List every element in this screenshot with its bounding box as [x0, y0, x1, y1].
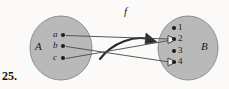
function-mapping-figure: f A B a b c 1 2 3 4 25. [0, 0, 229, 89]
element-label-c: c [53, 53, 57, 62]
set-label-a: A [35, 41, 42, 52]
element-dot-3 [172, 49, 176, 53]
element-dot-b [61, 44, 65, 48]
function-label-f: f [124, 6, 127, 17]
element-dot-a [61, 33, 65, 37]
element-dot-c [61, 56, 65, 60]
element-label-b: b [53, 41, 58, 50]
element-dot-1 [172, 26, 176, 30]
element-label-3: 3 [178, 46, 183, 55]
element-label-4: 4 [178, 57, 183, 66]
exercise-number: 25. [2, 70, 17, 82]
element-dot-2 [172, 37, 176, 41]
set-b-ellipse [158, 16, 218, 80]
element-label-2: 2 [178, 34, 183, 43]
element-label-a: a [53, 30, 58, 39]
set-label-b: B [201, 41, 208, 52]
element-dot-4 [172, 60, 176, 64]
element-label-1: 1 [178, 23, 183, 32]
